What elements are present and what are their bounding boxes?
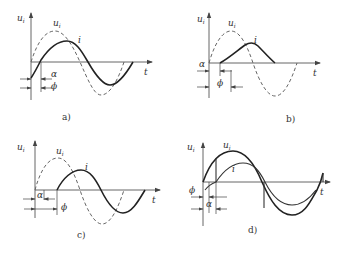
y-axis-label: ui [197, 14, 205, 25]
voltage-curve-label: ui [56, 146, 64, 157]
voltage-curve-label: ui [228, 18, 236, 29]
voltage-curve-label: ui [223, 140, 231, 151]
panel-a: ui t ui i α ϕ a) [17, 13, 152, 122]
alpha-label: α [206, 199, 212, 209]
y-axis-label: ui [187, 142, 195, 153]
alpha-label: α [51, 69, 57, 79]
voltage-curve-label: ui [53, 18, 61, 29]
alpha-label: α [37, 190, 43, 200]
panel-caption: a) [62, 112, 71, 122]
t-axis-label: t [320, 187, 324, 197]
t-axis-label: t [152, 195, 156, 205]
current-curve-label: i [254, 35, 257, 45]
panel-caption: b) [286, 114, 295, 124]
phi-label: ϕ [51, 81, 57, 91]
panel-c: ui t ui i α ϕ c) [17, 141, 160, 240]
alpha-label: α [199, 59, 205, 69]
panel-caption: d) [248, 225, 257, 235]
t-axis-label: t [313, 68, 317, 78]
panel-b: ui t ui i α ϕ b) [197, 13, 320, 124]
voltage-curve-dashed [35, 158, 124, 224]
phi-label: ϕ [217, 78, 223, 88]
current-curve-label: i [78, 35, 81, 45]
current-curve-label: i [85, 162, 88, 172]
panel-caption: c) [77, 230, 86, 240]
current-curve [57, 170, 145, 213]
phi-label: ϕ [189, 185, 195, 195]
phi-label: ϕ [61, 202, 67, 212]
y-axis-label: ui [17, 142, 25, 153]
panel-d: ui t ui i ϕ α d) [187, 140, 330, 235]
current-curve-label: i [232, 164, 235, 174]
y-axis-label: ui [17, 13, 25, 24]
current-curve [205, 163, 316, 205]
waveform-figure: ui t ui i α ϕ a) ui t ui i α ϕ b) [0, 0, 342, 255]
t-axis-label: t [144, 67, 148, 77]
current-curve [220, 43, 275, 63]
voltage-curve [203, 151, 323, 215]
current-curve [31, 41, 133, 85]
